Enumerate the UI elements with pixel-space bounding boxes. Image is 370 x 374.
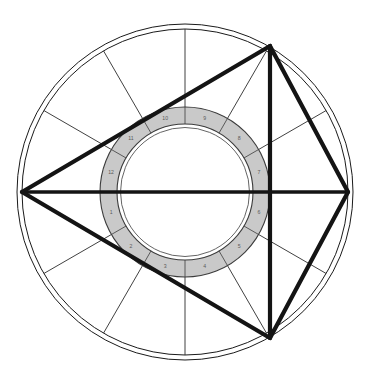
house-number-5: 5 xyxy=(238,243,241,249)
house-number-6: 6 xyxy=(257,209,260,215)
astrology-chart-wheel: 123456789101112 xyxy=(0,0,370,374)
house-cusp-spoke-4 xyxy=(104,51,143,119)
house-number-1: 1 xyxy=(110,209,113,215)
house-number-3: 3 xyxy=(164,263,167,269)
house-number-4: 4 xyxy=(203,263,206,269)
house-cusp-spoke-8 xyxy=(104,266,143,334)
chart-canvas: 123456789101112 xyxy=(0,0,370,374)
house-number-8: 8 xyxy=(238,135,241,141)
house-number-2: 2 xyxy=(129,243,132,249)
house-number-11: 11 xyxy=(128,135,133,141)
house-number-10: 10 xyxy=(162,115,168,121)
house-number-9: 9 xyxy=(203,115,206,121)
house-number-12: 12 xyxy=(108,169,114,175)
house-number-7: 7 xyxy=(257,169,260,175)
